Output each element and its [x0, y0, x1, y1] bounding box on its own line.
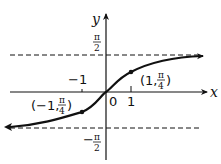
point-right-label: (1, π 4 )	[140, 70, 171, 91]
svg-text:−: −	[83, 132, 94, 147]
svg-text:(−1,: (−1,	[31, 98, 59, 113]
svg-text:2: 2	[94, 143, 100, 153]
point-right	[129, 70, 134, 75]
svg-text:2: 2	[94, 43, 100, 53]
svg-text:4: 4	[59, 106, 65, 116]
tick-label-neg1: −1	[68, 72, 87, 87]
svg-text:): )	[166, 73, 171, 88]
svg-text:π: π	[59, 95, 65, 105]
x-axis-label: x	[210, 84, 218, 100]
point-left	[80, 110, 85, 115]
svg-text:π: π	[94, 132, 100, 142]
point-left-label: (−1, π 4 )	[31, 95, 72, 116]
svg-text:(1,: (1,	[140, 73, 157, 88]
label-neg-pi-over-2: − π 2	[83, 132, 101, 153]
tick-label-0: 0	[109, 94, 117, 109]
svg-text:π: π	[158, 70, 164, 80]
label-pi-over-2: π 2	[93, 32, 101, 53]
svg-text:4: 4	[158, 81, 164, 91]
y-axis-label: y	[91, 11, 101, 27]
arctan-graph: y x −1 0 1 π 2 − π 2 (1, π 4 ) (−1, π 4 …	[0, 0, 221, 164]
svg-text:π: π	[94, 32, 100, 42]
svg-text:): )	[67, 98, 72, 113]
tick-label-1: 1	[127, 94, 135, 109]
